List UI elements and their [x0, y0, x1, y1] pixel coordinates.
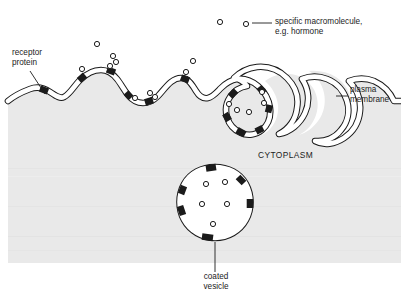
- label-macromolecule-line2: e.g. hormone: [275, 27, 362, 37]
- receptor-patch: [238, 177, 244, 183]
- coated-vesicle: [180, 167, 251, 238]
- receptor-patch: [181, 186, 184, 194]
- receptor-patch: [237, 130, 245, 135]
- vesicle-macromolecule: [222, 179, 227, 184]
- free-macromolecule: [243, 21, 248, 26]
- vesicle-macromolecule: [210, 221, 215, 226]
- bound-macromolecule: [107, 63, 112, 68]
- receptor-patch: [256, 128, 263, 132]
- receptor-patch: [145, 100, 153, 103]
- free-macromolecule: [190, 58, 195, 63]
- label-macromolecule-line1: specific macromolecule,: [275, 17, 362, 27]
- free-macromolecule: [94, 41, 99, 46]
- bound-macromolecule: [147, 90, 152, 95]
- receptor-patch: [206, 167, 216, 169]
- receptor-patch: [230, 91, 236, 97]
- receptor-patch: [181, 78, 189, 81]
- label-receptor-protein-line1: receptor: [12, 48, 42, 58]
- bound-macromolecule: [246, 109, 251, 114]
- bound-macromolecule: [234, 107, 239, 112]
- cell-diagram-figure: receptor protein specific macromolecule,…: [0, 0, 401, 301]
- vesicle-macromolecule: [224, 201, 229, 206]
- receptor-patch: [79, 75, 85, 81]
- bound-macromolecule: [259, 89, 264, 94]
- receptor-patch: [268, 105, 270, 113]
- vesicle-macromolecule: [199, 201, 204, 206]
- diagram-canvas: [0, 0, 401, 301]
- free-macromolecule: [110, 53, 115, 58]
- bound-macromolecule: [113, 59, 118, 64]
- vesicle-macromolecule: [203, 181, 208, 186]
- label-receptor-protein: receptor protein: [12, 48, 42, 68]
- label-specific-macromolecule: specific macromolecule, e.g. hormone: [275, 17, 362, 37]
- bound-macromolecule: [261, 100, 266, 105]
- label-receptor-protein-line2: protein: [12, 58, 42, 68]
- bound-macromolecule: [152, 94, 157, 99]
- label-cytoplasm: CYTOPLASM: [258, 150, 313, 160]
- label-coated-vesicle-line2: vesicle: [194, 282, 238, 292]
- label-coated-vesicle: coated vesicle: [194, 272, 238, 292]
- label-plasma-membrane-line2: membrane: [350, 95, 389, 105]
- receptor-patch: [126, 93, 131, 99]
- receptor-patch: [180, 206, 183, 215]
- label-coated-vesicle-line1: coated: [194, 272, 238, 282]
- receptor-patch: [225, 114, 229, 121]
- bound-macromolecule: [79, 66, 84, 71]
- bound-macromolecule: [132, 95, 137, 100]
- bound-macromolecule: [226, 101, 231, 106]
- bound-macromolecule: [183, 69, 188, 74]
- receptor-patch: [202, 237, 213, 239]
- label-plasma-membrane: plasma membrane: [350, 85, 389, 105]
- free-macromolecule: [217, 19, 222, 24]
- receptor-patch: [107, 70, 115, 73]
- label-plasma-membrane-line1: plasma: [350, 85, 389, 95]
